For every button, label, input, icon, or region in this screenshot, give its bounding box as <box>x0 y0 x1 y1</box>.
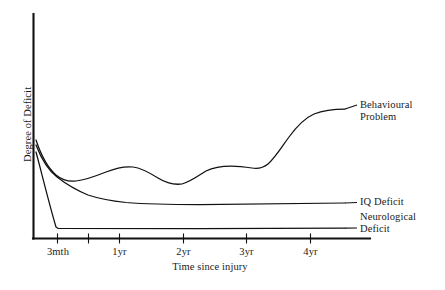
series-label-neurological-deficit-line2: Deficit <box>360 223 390 235</box>
y-axis-title: Degree of Deficit <box>22 87 34 162</box>
series-line-neurological-deficit <box>36 152 345 229</box>
series-line-behavioural-problem <box>36 109 345 184</box>
x-tick-label-3yr: 3yr <box>226 246 267 258</box>
series-label-neurological-deficit-line1: Neurological <box>360 211 416 223</box>
x-tick-label-3mth: 3mth <box>32 246 84 258</box>
leader-line-iq <box>345 203 357 204</box>
series-line-iq-deficit <box>36 145 345 205</box>
x-axis-title: Time since injury <box>150 261 270 273</box>
series-label-behavioural-problem-line1: Behavioural <box>360 99 412 111</box>
leader-line-behavioural <box>345 105 357 109</box>
x-tick-label-4yr: 4yr <box>290 246 331 258</box>
x-tick-label-2yr: 2yr <box>163 246 204 258</box>
x-tick-label-1yr: 1yr <box>99 246 140 258</box>
chart-figure: Degree of Deficit 3mth 1yr 2yr 3yr 4yr T… <box>0 0 445 290</box>
series-label-behavioural-problem-line2: Problem <box>360 111 396 123</box>
series-label-iq-deficit: IQ Deficit <box>360 196 404 208</box>
